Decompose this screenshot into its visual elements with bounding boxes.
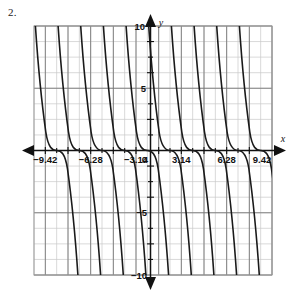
y-axis-arrow-up <box>145 14 156 27</box>
x-tick-label-0: −9.42 <box>33 154 57 165</box>
x-axis-label: x <box>280 133 286 144</box>
x-tick-label-4: 3.14 <box>172 154 191 165</box>
x-tick-labels: −9.42 −6.28 −3.14 0 3.14 6.28 9.42 <box>33 154 271 165</box>
y-tick-label-5: 5 <box>141 83 147 94</box>
figure-container: 2. <box>0 0 304 296</box>
x-tick-label-6: 9.42 <box>253 154 272 165</box>
problem-number: 2. <box>8 6 17 18</box>
y-tick-label-n10: −10 <box>131 270 147 281</box>
x-axis-arrow-right <box>274 145 286 156</box>
y-axis-label: y <box>158 17 164 28</box>
y-tick-label-10: 10 <box>134 21 145 32</box>
x-tick-label-5: 6.28 <box>217 154 236 165</box>
y-tick-label-n5: −5 <box>136 207 148 218</box>
tangent-function-graph: −9.42 −6.28 −3.14 0 3.14 6.28 9.42 10 5 … <box>0 0 304 296</box>
x-tick-label-1: −6.28 <box>79 154 103 165</box>
x-tick-label-3: 0 <box>142 154 147 165</box>
x-axis-arrow-left <box>22 145 34 156</box>
